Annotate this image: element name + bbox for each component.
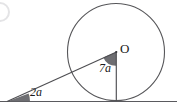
figure-canvas <box>0 0 177 108</box>
angle-label-at-center: 7a <box>99 62 111 74</box>
page-edge-arc-icon <box>0 3 9 21</box>
geometry-figure: O 7a 2a <box>0 0 177 108</box>
center-point-dot <box>115 51 117 53</box>
slant-line <box>7 52 117 102</box>
angle-label-at-vertex: 2a <box>30 86 42 98</box>
center-point-label: O <box>120 42 129 55</box>
